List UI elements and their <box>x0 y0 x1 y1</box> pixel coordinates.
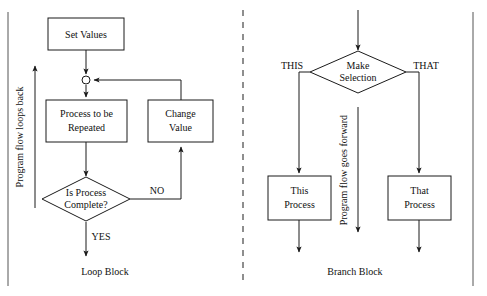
flowchart-canvas: Program flow loops back Set Values <box>0 0 487 296</box>
node-set-values-label: Set Values <box>65 29 107 40</box>
edge-label-that: THAT <box>413 60 439 71</box>
node-this-process-label-line-1: This <box>291 185 309 196</box>
node-decision-label-line-1: Is Process <box>66 187 106 198</box>
flow-junction-node <box>82 76 90 84</box>
caption-loop-block: Loop Block <box>81 266 129 277</box>
edge-selection-this-to-process <box>299 72 310 173</box>
node-change-value-label-line-2: Value <box>169 122 192 133</box>
loop-back-annotation-label: Program flow loops back <box>14 87 25 188</box>
node-process-label-line-1: Process to be <box>60 108 113 119</box>
node-this-process-label-line-2: Process <box>284 199 315 210</box>
node-that-process-label-line-1: That <box>410 185 429 196</box>
loop-connectors <box>86 50 181 256</box>
node-is-process-complete[interactable]: Is Process Complete? <box>42 177 130 221</box>
caption-branch-block: Branch Block <box>327 266 382 277</box>
node-set-values[interactable]: Set Values <box>48 18 124 50</box>
node-change-value-label-line-1: Change <box>165 108 196 119</box>
forward-flow-annotation: Program flow goes forward <box>338 107 358 232</box>
node-make-selection-label-line-2: Selection <box>339 72 376 83</box>
edge-selection-that-to-process <box>406 72 419 173</box>
node-change-value[interactable]: Change Value <box>148 100 213 142</box>
node-make-selection-label-line-1: Make <box>347 60 370 71</box>
edge-label-yes: YES <box>92 231 111 242</box>
node-process-label-line-2: Repeated <box>68 122 105 133</box>
edge-changevalue-to-junction <box>94 80 181 100</box>
edge-label-this: THIS <box>281 60 303 71</box>
node-that-process[interactable]: That Process <box>388 176 451 220</box>
loop-back-annotation: Program flow loops back <box>14 66 35 208</box>
node-process-to-be-repeated[interactable]: Process to be Repeated <box>46 100 127 142</box>
node-decision-label-line-2: Complete? <box>64 199 108 210</box>
node-make-selection[interactable]: Make Selection <box>310 51 406 93</box>
node-this-process[interactable]: This Process <box>268 176 331 220</box>
flowchart-figure: Program flow loops back Set Values <box>0 0 487 296</box>
edge-label-no: NO <box>150 185 164 196</box>
node-that-process-label-line-2: Process <box>404 199 435 210</box>
forward-flow-annotation-label: Program flow goes forward <box>338 115 349 225</box>
